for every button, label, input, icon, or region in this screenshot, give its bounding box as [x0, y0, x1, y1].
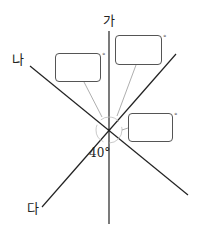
degree-top-right: ° [163, 35, 167, 42]
label-ga: 가 [103, 14, 115, 27]
label-na: 나 [12, 53, 24, 66]
degree-right: ° [174, 113, 178, 120]
pointer-top-right [117, 65, 136, 116]
answer-box-left[interactable] [55, 53, 101, 82]
label-da: 다 [27, 202, 39, 215]
answer-box-top-right[interactable] [115, 35, 162, 65]
degree-left: ° [102, 53, 106, 60]
given-angle: 40° [89, 147, 110, 159]
intersection-point [108, 129, 110, 131]
answer-box-right[interactable] [128, 113, 173, 142]
